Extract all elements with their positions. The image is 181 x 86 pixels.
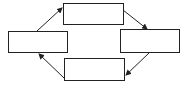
node-bottom [64, 58, 125, 81]
arrow-right-to-bottom [126, 53, 149, 75]
node-top [63, 3, 124, 25]
arrow-left-to-top [37, 8, 62, 31]
arrow-top-to-right [123, 10, 147, 29]
arrow-bottom-to-left [39, 54, 64, 78]
node-left [8, 31, 68, 53]
node-right [120, 29, 180, 53]
